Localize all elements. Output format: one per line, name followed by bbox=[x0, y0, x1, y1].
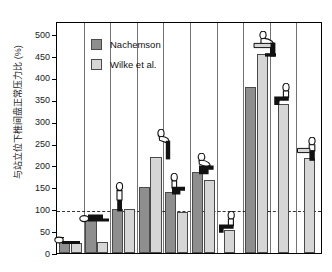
figure-standing-holding-load-icon bbox=[296, 137, 322, 161]
bar-wilke-7 bbox=[257, 54, 268, 253]
chart-figure: 与站立位下椎间盘正常压力比 (%) 0501001502002503003504… bbox=[0, 0, 332, 272]
legend-label-nachemson: Nachemson bbox=[110, 39, 161, 50]
bar-wilke-9 bbox=[304, 158, 315, 253]
y-tick-mark bbox=[52, 145, 57, 146]
y-tick-mark bbox=[52, 232, 57, 233]
y-tick-mark bbox=[52, 188, 57, 189]
bar-wilke-3 bbox=[150, 157, 161, 253]
bar-nachemson-5 bbox=[192, 172, 203, 253]
legend-item-nachemson: Nachemson bbox=[91, 39, 161, 50]
figure-sitting-holding-load-icon bbox=[272, 83, 294, 107]
y-tick-label: 50 bbox=[12, 228, 50, 237]
bar-wilke-1 bbox=[97, 242, 108, 253]
y-tick-label: 300 bbox=[12, 118, 50, 127]
y-tick-mark bbox=[52, 57, 57, 58]
figure-lying-on-side-icon bbox=[78, 210, 110, 223]
y-tick-mark bbox=[52, 210, 57, 211]
y-tick-label: 150 bbox=[12, 184, 50, 193]
bar-wilke-2 bbox=[124, 209, 135, 253]
figure-standing-bent-forward-icon bbox=[156, 129, 172, 160]
y-tick-mark bbox=[52, 101, 57, 102]
bar-nachemson-3 bbox=[139, 187, 150, 253]
figure-lying-supine-icon bbox=[53, 232, 83, 245]
figure-sitting-relaxed-icon bbox=[169, 173, 187, 195]
y-tick-mark bbox=[52, 166, 57, 167]
y-tick-label: 400 bbox=[12, 74, 50, 83]
legend-swatch-nachemson bbox=[91, 39, 102, 50]
y-tick-label: 500 bbox=[12, 31, 50, 40]
bar-wilke-4 bbox=[177, 212, 188, 253]
legend: Nachemson Wilke et al. bbox=[91, 39, 161, 79]
y-tick-label: 450 bbox=[12, 53, 50, 62]
bar-wilke-6 bbox=[224, 230, 235, 253]
y-tick-label: 200 bbox=[12, 162, 50, 171]
bar-nachemson-1 bbox=[85, 220, 96, 253]
bar-wilke-5 bbox=[204, 180, 215, 253]
figure-sitting-bent-forward-icon bbox=[195, 153, 215, 175]
plot-area: Nachemson Wilke et al. bbox=[56, 22, 322, 254]
bar-nachemson-2 bbox=[112, 209, 123, 253]
y-tick-label: 250 bbox=[12, 140, 50, 149]
figure-standing-upright-icon bbox=[113, 182, 126, 212]
figure-sitting-slouched-icon bbox=[217, 211, 237, 233]
bar-wilke-8 bbox=[278, 104, 289, 253]
y-tick-label: 350 bbox=[12, 96, 50, 105]
legend-label-wilke: Wilke et al. bbox=[110, 59, 156, 70]
y-tick-label: 0 bbox=[12, 250, 50, 259]
y-tick-label: 100 bbox=[12, 206, 50, 215]
bar-nachemson-7 bbox=[245, 87, 256, 253]
y-tick-mark bbox=[52, 79, 57, 80]
legend-item-wilke: Wilke et al. bbox=[91, 59, 161, 70]
legend-swatch-wilke bbox=[91, 59, 102, 70]
y-tick-mark bbox=[52, 254, 57, 255]
figure-lifting-load-bent-icon bbox=[252, 31, 282, 57]
bar-nachemson-4 bbox=[165, 192, 176, 253]
y-tick-mark bbox=[52, 35, 57, 36]
y-tick-mark bbox=[52, 123, 57, 124]
group-separator bbox=[270, 23, 271, 253]
